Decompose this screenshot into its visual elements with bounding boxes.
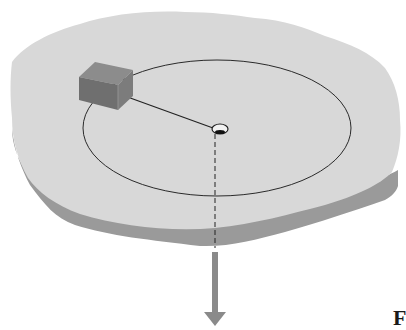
force-arrow-down-icon xyxy=(204,252,226,326)
table-top xyxy=(11,12,401,230)
figure-label: F xyxy=(393,305,406,330)
